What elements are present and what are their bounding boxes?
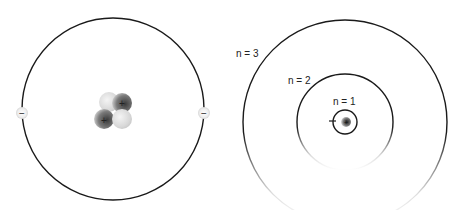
diagram-canvas: − − + + + n = 1 n = 2 n = 3 xyxy=(0,0,460,210)
electron-charge-icon: − xyxy=(201,108,207,119)
label-n2: n = 2 xyxy=(288,75,311,86)
electron-left: − xyxy=(16,107,28,119)
label-n1: n = 1 xyxy=(333,96,356,107)
plus-icon: + xyxy=(344,119,348,126)
label-n3: n = 3 xyxy=(236,48,259,59)
plus-icon: + xyxy=(101,115,107,126)
plus-icon: + xyxy=(119,98,125,109)
electron-charge-icon: − xyxy=(19,108,25,119)
orbit-n3 xyxy=(243,20,447,210)
bohr-model: + n = 1 n = 2 n = 3 xyxy=(236,20,447,210)
nucleus: + + xyxy=(94,92,132,129)
helium-atom: − − + + xyxy=(16,18,210,200)
electron-right: − xyxy=(198,107,210,119)
neutron xyxy=(112,109,132,129)
